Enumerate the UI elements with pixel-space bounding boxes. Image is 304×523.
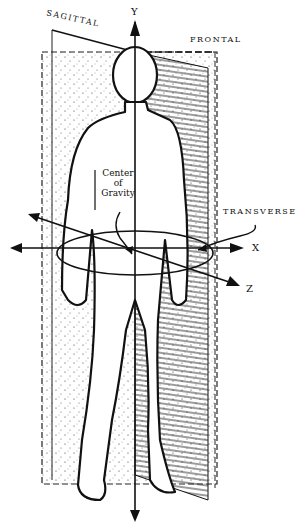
- cog-line-1: Center: [98, 168, 138, 178]
- z-axis-label: Z: [246, 283, 253, 294]
- frontal-label: FRONTAL: [190, 35, 242, 44]
- x-axis-label: X: [252, 242, 259, 253]
- transverse-label: TRANSVERSE: [223, 207, 297, 216]
- cog-line-3: Gravity: [98, 188, 138, 198]
- body-planes-illustration: [0, 0, 304, 523]
- center-of-gravity-label: Center of Gravity: [98, 168, 138, 198]
- cog-line-2: of: [98, 178, 138, 188]
- y-axis-label: Y: [131, 6, 138, 17]
